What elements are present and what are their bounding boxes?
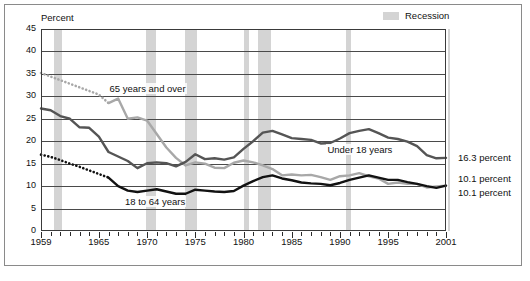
series-lines [41, 29, 446, 231]
series-line [41, 108, 446, 168]
x-axis-tick [417, 232, 418, 236]
x-axis-tick [321, 232, 322, 236]
x-axis-tick [301, 232, 302, 236]
y-axis-tick-label: 20 [12, 136, 36, 145]
y-axis-tick-label: 0 [12, 226, 36, 235]
x-axis-tick [398, 232, 399, 236]
x-axis-tick [70, 232, 71, 236]
x-axis-tick [205, 232, 206, 236]
x-axis-tick [109, 232, 110, 236]
x-axis-tick [436, 232, 437, 236]
series-line [109, 175, 447, 193]
end-value-label: 16.3 percent [458, 152, 511, 163]
end-value-label: 10.1 percent [458, 187, 511, 198]
x-axis-tick [186, 232, 187, 236]
x-axis-tick [253, 232, 254, 236]
x-axis-tick [369, 232, 370, 236]
x-axis-tick [80, 232, 81, 236]
y-axis-tick-label: 30 [12, 91, 36, 100]
y-axis-tick-label: 35 [12, 69, 36, 78]
x-axis-tick [99, 232, 100, 238]
recession-band [448, 29, 450, 231]
x-axis-tick [272, 232, 273, 236]
x-axis-tick [446, 232, 447, 238]
chart-figure: Percent Recession 65 years and overUnder… [0, 0, 530, 281]
series-label: 65 years and over [109, 83, 187, 94]
series-line [41, 73, 109, 103]
x-axis-tick [224, 232, 225, 236]
x-axis-tick [41, 232, 42, 238]
x-axis-tick [330, 232, 331, 236]
x-axis-tick [350, 232, 351, 236]
x-axis-tick [147, 232, 148, 238]
x-axis-tick [195, 232, 196, 238]
x-axis-tick [292, 232, 293, 238]
recession-swatch-icon [383, 12, 399, 20]
y-axis-tick-label: 10 [12, 181, 36, 190]
y-axis-tick-label: 15 [12, 159, 36, 168]
y-axis-tick-label: 25 [12, 114, 36, 123]
y-axis-tick-label: 40 [12, 46, 36, 55]
x-axis-tick [137, 232, 138, 236]
x-axis-tick [51, 232, 52, 236]
x-axis-tick [379, 232, 380, 236]
x-axis-tick [427, 232, 428, 236]
x-axis-tick [282, 232, 283, 236]
x-axis-tick [176, 232, 177, 236]
series-label: Under 18 years [326, 144, 393, 155]
x-axis-tick [234, 232, 235, 236]
plot-area: 65 years and overUnder 18 years18 to 64 … [41, 29, 446, 231]
legend: Recession [383, 10, 449, 21]
y-axis-title: Percent [41, 12, 74, 23]
legend-label-recession: Recession [405, 10, 449, 21]
series-label: 18 to 64 years [124, 196, 186, 207]
x-axis-tick [407, 232, 408, 236]
x-axis-tick [311, 232, 312, 236]
series-line [41, 155, 109, 178]
x-axis-tick [359, 232, 360, 236]
end-value-label: 10.1 percent [458, 173, 511, 184]
x-axis-tick [60, 232, 61, 236]
y-axis-tick-label: 5 [12, 204, 36, 213]
x-axis-tick [244, 232, 245, 238]
x-axis-tick [118, 232, 119, 236]
series-line [109, 99, 447, 188]
x-axis-tick [89, 232, 90, 236]
x-axis-tick [340, 232, 341, 238]
y-axis-tick-label: 45 [12, 24, 36, 33]
x-axis-tick [128, 232, 129, 236]
x-axis-tick [388, 232, 389, 238]
x-axis-tick [166, 232, 167, 236]
x-axis-tick [157, 232, 158, 236]
x-axis-tick [263, 232, 264, 236]
x-axis-tick [215, 232, 216, 236]
